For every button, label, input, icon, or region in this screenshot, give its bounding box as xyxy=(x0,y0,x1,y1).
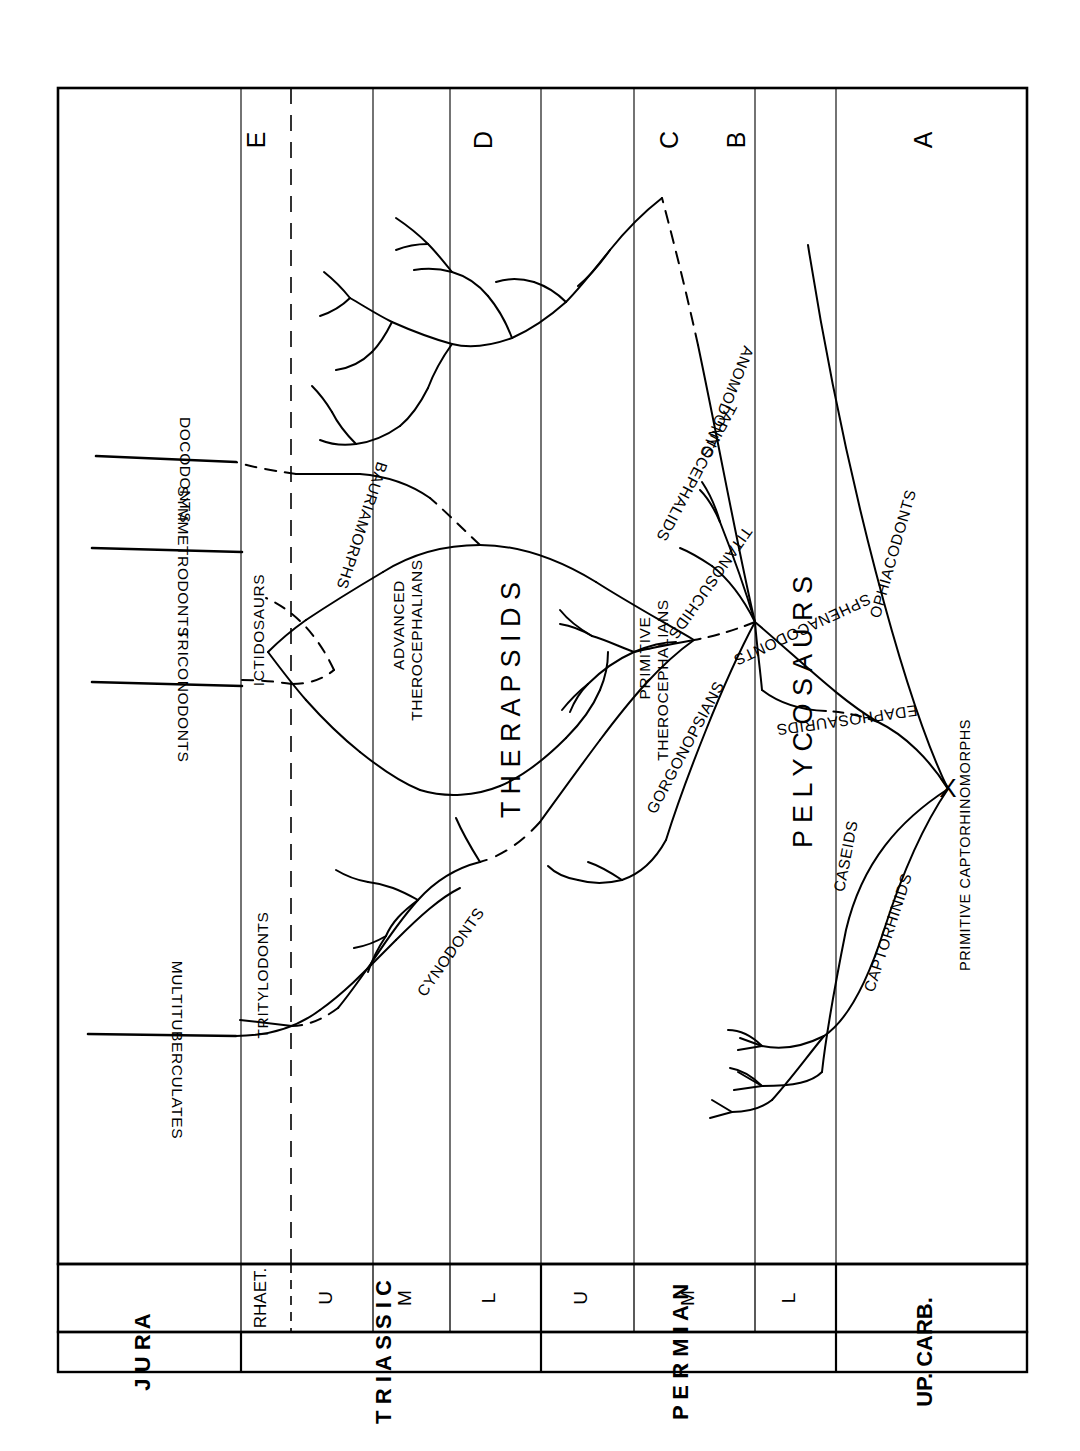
line-symmetrodonts xyxy=(92,548,242,552)
curve-cynodont-trunk-b xyxy=(540,740,600,822)
curve-anomo-rad-trunk xyxy=(610,198,662,250)
curve-multi-stem-b xyxy=(320,940,396,1010)
epoch-label-tr-l: L xyxy=(478,1293,499,1304)
curve-cynodont-trunk-d xyxy=(372,900,418,962)
period-row-box xyxy=(58,1332,1027,1372)
scale-row-dividers xyxy=(241,1264,836,1372)
period-label-jurassic: J U R A xyxy=(130,1313,155,1391)
epoch-row-box xyxy=(58,1264,1027,1332)
stage-letter-B: B xyxy=(722,132,750,149)
branchlet-cyno-up-2 xyxy=(306,700,360,752)
period-label-triassic: T R I A S S I C xyxy=(371,1280,396,1424)
epoch-labels: RHAET. U M L U M L xyxy=(251,1268,799,1328)
branch-anomo-b3 xyxy=(414,269,452,272)
curve-anomo-rad-trunk-4 xyxy=(452,338,512,346)
epoch-label-p-l: L xyxy=(778,1293,799,1304)
taxon-label-primitive-captorhinomorphs: PRIMITIVE CAPTORHINOMORPHS xyxy=(957,719,973,971)
branch-anomo-a2 xyxy=(400,388,428,426)
taxon-label-primitive-therocephalians-2: THEROCEPHALIANS xyxy=(654,599,671,760)
branchlet-cyno-3 xyxy=(456,818,480,862)
branchlet-ptheroc-2 xyxy=(588,652,634,684)
stage-letter-C: C xyxy=(655,131,683,149)
branch-anomo-a6 xyxy=(312,386,332,412)
branch-anomo-b2 xyxy=(452,272,488,296)
chart-page: E D C B A RHAET. U M L U M L J U R A T R… xyxy=(0,0,1080,1451)
taxon-label-captorhinids: CAPTORHINIDS xyxy=(861,871,916,994)
taxon-label-caseids: CASEIDS xyxy=(830,819,860,893)
curve-gorgonopsians-terminal xyxy=(622,840,666,880)
curve-titanosuchids-tip xyxy=(680,548,712,566)
curve-ictidosaurs-dash-b xyxy=(292,670,334,684)
branchlet-ptheroc-1 xyxy=(592,636,634,652)
taxon-label-advanced-therocephalians-2: THEROCEPHALIANS xyxy=(408,559,425,720)
branch-anomo-b xyxy=(488,296,512,338)
branch-anomo-b5 xyxy=(396,218,428,244)
branchlet-captorhinid-2 xyxy=(738,1046,762,1050)
curve-anomo-rad-trunk-5 xyxy=(392,322,452,344)
stage-letter-D: D xyxy=(469,131,497,149)
curve-bauriamorphs-dashed xyxy=(430,498,480,545)
branchlet-cyno-up-6 xyxy=(566,690,600,738)
branchlet-cyno-up-3 xyxy=(360,752,420,790)
branch-anomo-c2 xyxy=(496,279,534,282)
chart-frame xyxy=(58,88,1027,1372)
epoch-label-p-u: U xyxy=(570,1291,591,1305)
branch-anomo-a3 xyxy=(356,426,400,444)
curve-anomo-rad-trunk-6 xyxy=(350,298,392,322)
curve-ophiacodont-base xyxy=(878,722,948,789)
taxon-label-anomodonts: ANOMODONTS xyxy=(697,344,757,461)
branch-anomo-d xyxy=(372,322,392,352)
branchlet-captorhinid-5 xyxy=(710,1112,732,1118)
curve-docodonts-dashed xyxy=(236,462,296,474)
period-label-permian: P E R M I A N xyxy=(668,1284,693,1420)
root-marker-group: X xyxy=(939,773,956,803)
curve-ophiacodonts xyxy=(808,245,948,789)
curve-anomo-rad-trunk-3 xyxy=(512,302,566,338)
branch-anomo-a5 xyxy=(332,412,356,444)
taxon-label-ictidosaurs: ICTIDOSAURS xyxy=(250,574,267,687)
branchlet-captorhinid-4 xyxy=(712,1100,732,1112)
epoch-label-tr-m: M xyxy=(394,1290,415,1306)
branchlet-ptheroc-1b xyxy=(560,610,592,636)
line-triconodonts xyxy=(92,682,242,686)
branchlet-cyno-up-4 xyxy=(420,786,500,795)
branch-anomo-f xyxy=(324,272,350,298)
plot-outer-box xyxy=(58,88,1027,1264)
branch-anomo-a4 xyxy=(320,440,356,445)
taxon-label-ophiacodonts: OPHIACODONTS xyxy=(866,487,919,619)
branchlet-cyno-1 xyxy=(368,882,418,900)
branchlet-caseid-2 xyxy=(734,1086,762,1090)
branch-anomo-e xyxy=(578,250,610,286)
taxon-label-primitive-therocephalians-1: PRIMITIVE xyxy=(636,617,653,700)
line-docodonts xyxy=(96,456,236,462)
stage-letter-A: A xyxy=(909,131,937,148)
taxon-label-triconodonts: TRICONODONTS xyxy=(175,630,192,763)
branchlet-gorgo-3 xyxy=(548,866,578,880)
branch-anomo-b6 xyxy=(396,244,428,250)
branchlet-tapino-1 xyxy=(702,482,720,522)
period-label-upcarb: UP. CARB. xyxy=(912,1297,937,1407)
curve-caseids-terminal xyxy=(762,1072,822,1086)
branch-anomo-c xyxy=(534,282,566,302)
line-multituberculates xyxy=(88,1034,236,1036)
branch-anomo-f2 xyxy=(320,298,350,316)
branchlet-cyno-up-1 xyxy=(268,652,306,700)
root-marker: X xyxy=(939,773,956,803)
epoch-label-rhaetic: RHAET. xyxy=(251,1268,270,1328)
taxon-label-multituberculates: MULTITUBERCULATES xyxy=(169,961,186,1139)
branchlet-gorgo-1 xyxy=(578,880,622,883)
curve-multi-stem-a xyxy=(236,1010,320,1036)
taxon-label-advanced-therocephalians-1: ADVANCED xyxy=(390,580,407,670)
curve-captorhinid-stub-2 xyxy=(732,1100,772,1112)
taxon-label-symmetrodonts: SYMMETRODONTS xyxy=(175,486,192,638)
curve-advanced-theroc-trunk-b xyxy=(480,545,596,582)
curve-theroc-to-left-2 xyxy=(268,620,306,652)
group-label-therapsids: T H E R A P S I D S xyxy=(496,582,526,818)
taxon-label-tritylodonts: TRITYLODONTS xyxy=(254,912,271,1039)
stage-letter-E: E xyxy=(242,132,270,149)
curve-anomodonts-dashed xyxy=(662,198,698,345)
stage-letters: E D C B A xyxy=(242,131,937,149)
branch-anomo-a xyxy=(428,344,452,388)
phylogeny-chart-svg: E D C B A RHAET. U M L U M L J U R A T R… xyxy=(0,0,1080,1451)
curve-advanced-theroc-trunk-c xyxy=(383,545,480,572)
